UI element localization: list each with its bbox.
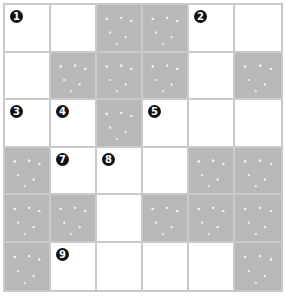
clue-number-badge: 1 <box>10 10 23 23</box>
blocked-cell <box>51 195 97 243</box>
blocked-cell <box>235 53 281 101</box>
answer-cell[interactable] <box>97 243 143 291</box>
blocked-cell <box>143 5 189 53</box>
blocked-cell <box>97 100 143 148</box>
blocked-cell <box>5 148 51 196</box>
clue-number-badge: 4 <box>56 105 69 118</box>
answer-cell[interactable]: 1 <box>5 5 51 53</box>
answer-cell[interactable]: 9 <box>51 243 97 291</box>
answer-cell[interactable]: 3 <box>5 100 51 148</box>
answer-cell[interactable] <box>97 195 143 243</box>
clue-number-badge: 2 <box>194 10 207 23</box>
blocked-cell <box>5 195 51 243</box>
answer-cell[interactable]: 8 <box>97 148 143 196</box>
answer-cell[interactable] <box>5 53 51 101</box>
answer-cell[interactable] <box>189 100 235 148</box>
blocked-cell <box>235 148 281 196</box>
blocked-cell <box>143 195 189 243</box>
clue-number-badge: 7 <box>56 153 69 166</box>
blocked-cell <box>189 195 235 243</box>
blocked-cell <box>143 53 189 101</box>
answer-cell[interactable]: 4 <box>51 100 97 148</box>
blocked-cell <box>189 148 235 196</box>
clue-number-badge: 8 <box>102 153 115 166</box>
blocked-cell <box>97 5 143 53</box>
blocked-cell <box>235 195 281 243</box>
answer-cell[interactable] <box>51 5 97 53</box>
answer-cell[interactable]: 7 <box>51 148 97 196</box>
answer-cell[interactable] <box>189 243 235 291</box>
answer-cell[interactable] <box>143 243 189 291</box>
answer-cell[interactable] <box>235 5 281 53</box>
answer-cell[interactable]: 5 <box>143 100 189 148</box>
answer-cell[interactable] <box>235 100 281 148</box>
blocked-cell <box>97 53 143 101</box>
clue-number-badge: 3 <box>10 105 23 118</box>
crossword-grid: 12345789 <box>3 3 283 292</box>
blocked-cell <box>5 243 51 291</box>
blocked-cell <box>51 53 97 101</box>
clue-number-badge: 9 <box>56 248 69 261</box>
answer-cell[interactable] <box>189 53 235 101</box>
clue-number-badge: 5 <box>148 105 161 118</box>
answer-cell[interactable]: 2 <box>189 5 235 53</box>
answer-cell[interactable] <box>143 148 189 196</box>
blocked-cell <box>235 243 281 291</box>
